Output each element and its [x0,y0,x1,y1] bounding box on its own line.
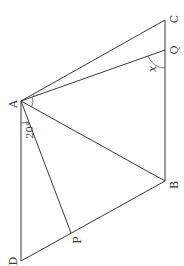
angle-label-20deg: 20° [24,121,35,139]
label-p: P [71,236,84,244]
segment-ac [21,20,165,101]
label-q: Q [168,45,181,54]
segment-ab [21,101,165,181]
angle-label-x: x [146,65,159,72]
label-c: C [168,15,181,23]
segment-ap [21,101,71,233]
angle-arc-qab [32,98,33,107]
label-a: A [7,99,20,109]
segment-aq [21,50,165,101]
geometry-figure: A C Q B P D 20° x [0,0,184,266]
label-b: B [168,181,181,189]
label-d: D [7,256,20,265]
segment-bd [21,181,165,261]
